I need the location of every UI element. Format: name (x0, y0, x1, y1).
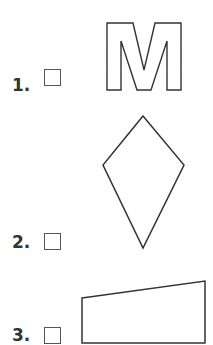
trapezoid-shape-icon (0, 0, 213, 345)
